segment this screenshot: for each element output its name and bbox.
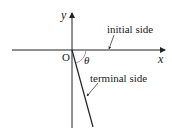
terminal-side-ray	[72, 50, 93, 127]
origin-label: O	[62, 51, 70, 63]
initial-side-leader	[109, 35, 114, 49]
angle-diagram: y x O θ initial side terminal side	[0, 0, 172, 131]
y-axis-label: y	[60, 8, 67, 22]
terminal-side-leader	[87, 83, 98, 96]
angle-label: θ	[84, 54, 90, 66]
x-axis-label: x	[157, 52, 164, 66]
initial-side-label: initial side	[107, 23, 153, 35]
terminal-side-label: terminal side	[90, 72, 147, 84]
